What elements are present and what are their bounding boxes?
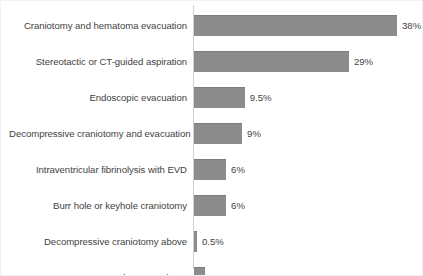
- bar-value-label: 0.5%: [202, 231, 224, 252]
- bar-row: Stereotactic or CT-guided aspiration29%: [1, 51, 423, 72]
- bar-row: Decompressive craniotomy and evacuation9…: [1, 123, 423, 144]
- bar-category-label: Stereotactic or CT-guided aspiration: [9, 51, 187, 72]
- bar-value-label: 9%: [247, 123, 261, 144]
- bar-value-label: 29%: [354, 51, 373, 72]
- bar-rect[interactable]: [194, 195, 226, 216]
- bar-row: Other procedures2%: [1, 267, 423, 276]
- bar-category-label: Burr hole or keyhole craniotomy: [9, 195, 187, 216]
- bar-row: Intraventricular fibrinolysis with EVD6%: [1, 159, 423, 180]
- bar-row: Burr hole or keyhole craniotomy6%: [1, 195, 423, 216]
- bar-rect[interactable]: [194, 15, 397, 36]
- bar-category-label: Other procedures: [9, 267, 187, 276]
- bar-value-label: 9.5%: [250, 87, 272, 108]
- bar-chart-figure: Craniotomy and hematoma evacuation38%Ste…: [0, 0, 423, 276]
- bar-value-label: 6%: [231, 159, 245, 180]
- bar-row: Craniotomy and hematoma evacuation38%: [1, 15, 423, 36]
- bar-value-label: 38%: [402, 15, 421, 36]
- bar-category-label: Endoscopic evacuation: [9, 87, 187, 108]
- bar-row: Decompressive craniotomy above0.5%: [1, 231, 423, 252]
- bar-rect[interactable]: [194, 159, 226, 180]
- bar-rect[interactable]: [194, 87, 245, 108]
- bar-rect[interactable]: [194, 51, 349, 72]
- bar-row: Endoscopic evacuation9.5%: [1, 87, 423, 108]
- bar-category-label: Decompressive craniotomy above: [9, 231, 187, 252]
- bar-category-label: Decompressive craniotomy and evacuation: [9, 123, 187, 144]
- bar-value-label: 6%: [231, 195, 245, 216]
- plot-area: Craniotomy and hematoma evacuation38%Ste…: [1, 1, 423, 276]
- bar-category-label: Intraventricular fibrinolysis with EVD: [9, 159, 187, 180]
- bar-category-label: Craniotomy and hematoma evacuation: [9, 15, 187, 36]
- bar-rect[interactable]: [194, 231, 197, 252]
- bar-rect[interactable]: [194, 267, 205, 276]
- bar-rect[interactable]: [194, 123, 242, 144]
- bar-value-label: 2%: [210, 267, 224, 276]
